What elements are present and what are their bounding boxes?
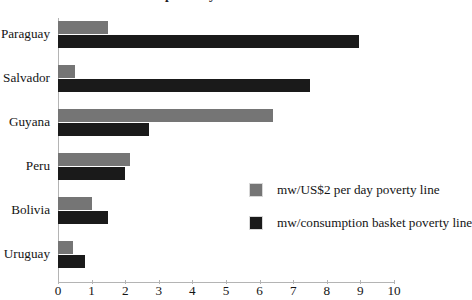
x-axis-tick-mark-5	[226, 280, 227, 284]
x-axis-tick-3: 3	[156, 284, 163, 298]
x-axis-tick-mark-6	[260, 280, 261, 284]
legend-label-2: mw/consumption basket poverty line	[277, 216, 472, 230]
legend-label-1: mw/US$2 per day poverty line	[277, 183, 440, 197]
x-axis-tick-2: 2	[122, 284, 129, 298]
legend-item-2: mw/consumption basket poverty line	[249, 215, 472, 231]
chart-title: proverty lines	[0, 0, 411, 2]
x-axis-tick-labels: 012345678910	[58, 284, 394, 300]
x-axis-tick-mark-10	[394, 280, 395, 284]
x-axis-tick-mark-0	[58, 280, 59, 284]
bar-group-guyana	[58, 109, 394, 154]
bar-bolivia-series-2	[58, 211, 108, 224]
x-axis-tick-7: 7	[290, 284, 297, 298]
bar-el-salvador-series-1	[58, 65, 75, 78]
y-axis-label-paraguay: Paraguay	[1, 27, 50, 41]
x-axis-tick-mark-4	[192, 280, 193, 284]
x-axis-tick-4: 4	[189, 284, 196, 298]
bar-bolivia-series-1	[58, 197, 92, 210]
x-axis-tick-0: 0	[55, 284, 62, 298]
x-axis-tick-10: 10	[387, 284, 400, 298]
x-axis-tick-6: 6	[256, 284, 263, 298]
y-axis-category-labels: ParaguayEl SalvadorGuyanaPeruBoliviaUrug…	[0, 18, 54, 282]
y-axis-label-el-salvador: El Salvador	[0, 71, 50, 85]
legend-swatch-1	[249, 183, 263, 197]
x-axis-tick-mark-2	[125, 280, 126, 284]
y-axis-label-peru: Peru	[26, 159, 50, 173]
y-axis-label-guyana: Guyana	[9, 115, 50, 129]
x-axis-tick-1: 1	[88, 284, 95, 298]
bar-guyana-series-2	[58, 123, 149, 136]
bar-peru-series-1	[58, 153, 130, 166]
bar-peru-series-2	[58, 167, 125, 180]
bar-uruguay-series-2	[58, 255, 85, 268]
x-axis-tick-mark-8	[327, 280, 328, 284]
x-axis-tick-9: 9	[357, 284, 364, 298]
legend-swatch-2	[249, 216, 263, 230]
bar-group-paraguay	[58, 21, 394, 66]
bar-uruguay-series-1	[58, 241, 73, 254]
x-axis-tick-mark-3	[159, 280, 160, 284]
bar-group-el-salvador	[58, 65, 394, 110]
x-axis-tick-mark-9	[360, 280, 361, 284]
x-axis-tick-5: 5	[223, 284, 230, 298]
y-axis-label-uruguay: Uruguay	[4, 247, 50, 261]
x-axis-tick-8: 8	[324, 284, 331, 298]
legend-item-1: mw/US$2 per day poverty line	[249, 182, 440, 198]
x-axis-tick-mark-7	[293, 280, 294, 284]
bar-paraguay-series-1	[58, 21, 108, 34]
y-axis-label-bolivia: Bolivia	[11, 203, 50, 217]
bar-guyana-series-1	[58, 109, 273, 122]
x-axis-tick-mark-1	[92, 280, 93, 284]
bar-el-salvador-series-2	[58, 79, 310, 92]
plot-area: mw/US$2 per day poverty linemw/consumpti…	[58, 18, 394, 282]
bar-paraguay-series-2	[58, 35, 359, 48]
